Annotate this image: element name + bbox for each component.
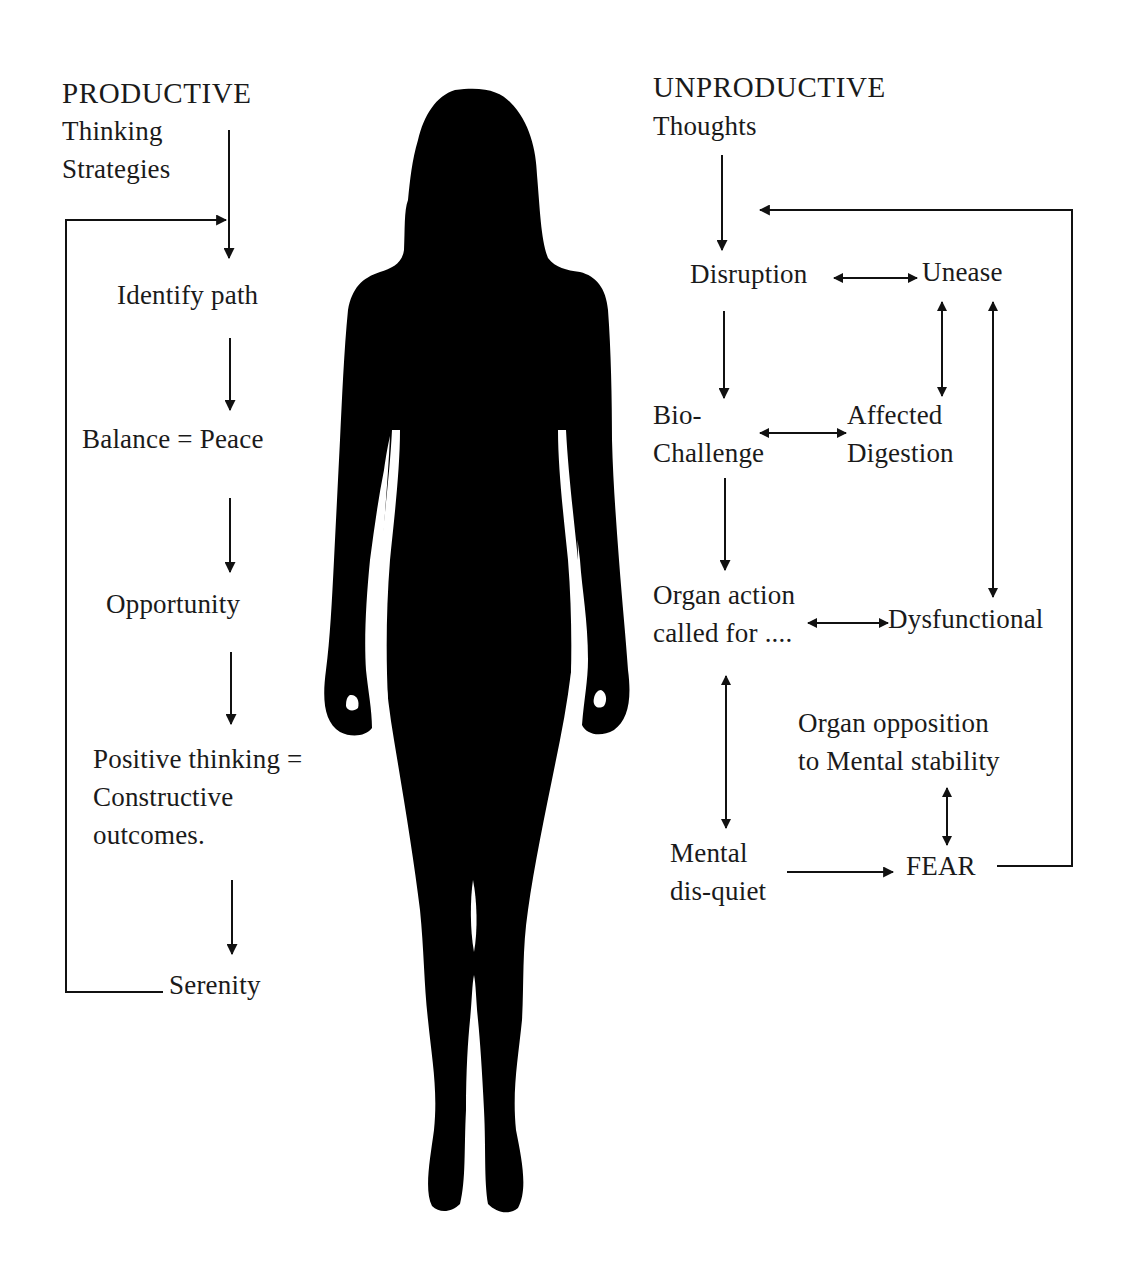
node-text: Organ opposition (798, 704, 1000, 742)
node-mental-disquiet: Mental dis-quiet (670, 834, 766, 910)
step-identify-path: Identify path (117, 276, 258, 314)
node-text: Organ action (653, 576, 795, 614)
unproductive-heading: UNPRODUCTIVE (653, 68, 886, 106)
node-text: Affected (847, 396, 954, 434)
node-text: called for .... (653, 614, 795, 652)
step-opportunity: Opportunity (106, 585, 240, 623)
subheading-line: Thinking (62, 112, 170, 150)
step-positive-thinking: Positive thinking = Constructive outcome… (93, 740, 303, 854)
node-unease: Unease (922, 253, 1003, 291)
node-text: Disruption (690, 255, 808, 293)
step-text: Constructive (93, 778, 303, 816)
unproductive-subheading: Thoughts (653, 107, 757, 145)
step-text: Serenity (169, 966, 261, 1004)
node-text: FEAR (906, 847, 976, 885)
productive-subheading: Thinking Strategies (62, 112, 170, 188)
node-affected-digestion: Affected Digestion (847, 396, 954, 472)
node-text: to Mental stability (798, 742, 1000, 780)
diagram-canvas: PRODUCTIVE Thinking Strategies Identify … (0, 0, 1132, 1272)
subheading-line: Strategies (62, 150, 170, 188)
step-balance-peace: Balance = Peace (82, 420, 264, 458)
node-organ-action: Organ action called for .... (653, 576, 795, 652)
step-text: Balance = Peace (82, 420, 264, 458)
node-text: dis-quiet (670, 872, 766, 910)
productive-heading: PRODUCTIVE (62, 74, 252, 112)
node-text: Digestion (847, 434, 954, 472)
node-organ-opposition: Organ opposition to Mental stability (798, 704, 1000, 780)
step-serenity: Serenity (169, 966, 261, 1004)
subheading-line: Thoughts (653, 107, 757, 145)
node-text: Challenge (653, 434, 764, 472)
node-dysfunctional: Dysfunctional (888, 600, 1044, 638)
node-fear: FEAR (906, 847, 976, 885)
step-text: Identify path (117, 276, 258, 314)
step-text: outcomes. (93, 816, 303, 854)
node-bio-challenge: Bio- Challenge (653, 396, 764, 472)
node-text: Mental (670, 834, 766, 872)
node-text: Dysfunctional (888, 600, 1044, 638)
step-text: Positive thinking = (93, 740, 303, 778)
step-text: Opportunity (106, 585, 240, 623)
node-disruption: Disruption (690, 255, 808, 293)
node-text: Bio- (653, 396, 764, 434)
node-text: Unease (922, 253, 1003, 291)
